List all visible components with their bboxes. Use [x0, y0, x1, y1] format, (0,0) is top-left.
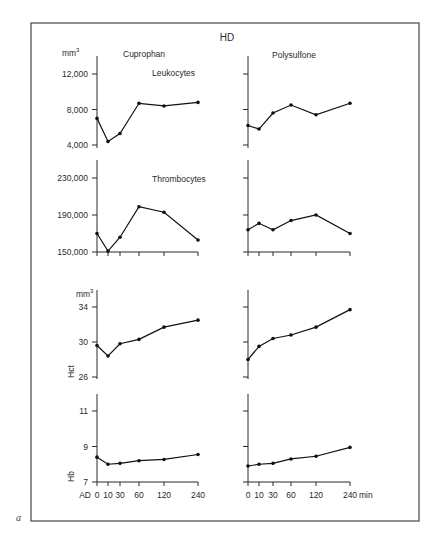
data-point	[118, 235, 122, 239]
y-tick-label: 7	[83, 477, 88, 487]
data-point	[348, 101, 352, 105]
x-axis-unit: min	[359, 490, 373, 500]
series-line	[97, 102, 198, 141]
data-point	[162, 325, 166, 329]
data-point	[196, 453, 200, 457]
label-hct: Hct	[66, 365, 76, 378]
data-point	[271, 228, 275, 232]
x-tick-label: 240	[343, 490, 357, 500]
data-point	[106, 462, 110, 466]
series-line	[97, 207, 198, 251]
unit-label-hct: mm	[76, 289, 90, 299]
data-point	[162, 104, 166, 108]
label-thrombocytes: Thrombocytes	[152, 174, 206, 184]
data-point	[257, 345, 261, 349]
data-point	[106, 249, 110, 253]
data-point	[289, 333, 293, 337]
y-tick-label: 4,000	[67, 140, 89, 150]
x-tick-label: 0	[246, 490, 251, 500]
data-point	[314, 113, 318, 117]
data-point	[137, 101, 141, 105]
series-line	[248, 103, 350, 129]
chart-canvas: HD 4,0008,00012,000150,000190,000230,000…	[0, 0, 438, 554]
data-point	[348, 232, 352, 236]
data-point	[246, 358, 250, 362]
x-tick-label: 10	[254, 490, 264, 500]
panel-letter: a	[16, 512, 21, 523]
series-line	[248, 447, 350, 466]
label-leukocytes: Leukocytes	[152, 68, 195, 78]
x-tick-label: 120	[157, 490, 171, 500]
data-point	[137, 459, 141, 463]
data-point	[348, 308, 352, 312]
unit-label-leukocytes: mm	[62, 48, 76, 58]
data-point	[137, 205, 141, 209]
x-tick-label: 60	[134, 490, 144, 500]
data-point	[196, 238, 200, 242]
data-point	[271, 337, 275, 341]
data-point	[289, 103, 293, 107]
x-axis-start-label: AD	[79, 490, 91, 500]
data-point	[95, 344, 99, 348]
data-point	[314, 454, 318, 458]
data-point	[95, 455, 99, 459]
figure-frame	[31, 23, 419, 521]
data-point	[196, 318, 200, 322]
series-line	[248, 215, 350, 234]
series-line	[97, 320, 198, 356]
data-point	[257, 462, 261, 466]
data-point	[246, 464, 250, 468]
column-label-cuprophan: Cuprophan	[123, 49, 165, 59]
chart-panels: 4,0008,00012,000150,000190,000230,000263…	[57, 47, 373, 500]
data-point	[348, 446, 352, 450]
data-point	[246, 228, 250, 232]
data-point	[162, 458, 166, 462]
data-point	[271, 462, 275, 466]
data-point	[106, 354, 110, 358]
figure-title: HD	[220, 32, 234, 43]
data-point	[118, 462, 122, 466]
x-tick-label: 60	[286, 490, 296, 500]
data-point	[257, 222, 261, 226]
x-tick-label: 240	[191, 490, 205, 500]
series-line	[248, 310, 350, 360]
y-tick-label: 30	[79, 337, 89, 347]
data-point	[106, 140, 110, 144]
y-tick-label: 9	[83, 442, 88, 452]
data-point	[257, 127, 261, 131]
label-hb: Hb	[66, 471, 76, 482]
data-point	[118, 342, 122, 346]
data-point	[246, 124, 250, 128]
figure: HD 4,0008,00012,000150,000190,000230,000…	[0, 0, 438, 554]
y-tick-label: 230,000	[57, 173, 88, 183]
unit-superscript: 3	[90, 288, 94, 294]
x-tick-label: 30	[115, 490, 125, 500]
y-tick-label: 26	[79, 372, 89, 382]
data-point	[95, 117, 99, 121]
x-tick-label: 120	[309, 490, 323, 500]
data-point	[289, 457, 293, 461]
y-tick-label: 11	[79, 406, 88, 416]
data-point	[271, 111, 275, 115]
series-line	[97, 454, 198, 464]
y-tick-label: 12,000	[62, 69, 88, 79]
data-point	[95, 232, 99, 236]
y-tick-label: 150,000	[57, 247, 88, 257]
unit-superscript: 3	[76, 47, 80, 53]
x-tick-label: 0	[95, 490, 100, 500]
x-tick-label: 30	[268, 490, 278, 500]
x-tick-label: 10	[103, 490, 113, 500]
data-point	[118, 132, 122, 136]
data-point	[196, 101, 200, 105]
y-tick-label: 190,000	[57, 210, 88, 220]
column-label-polysulfone: Polysulfone	[272, 50, 316, 60]
data-point	[162, 210, 166, 214]
data-point	[314, 325, 318, 329]
data-point	[314, 213, 318, 217]
data-point	[289, 219, 293, 223]
data-point	[137, 338, 141, 342]
y-tick-label: 8,000	[67, 105, 89, 115]
y-tick-label: 34	[79, 302, 89, 312]
